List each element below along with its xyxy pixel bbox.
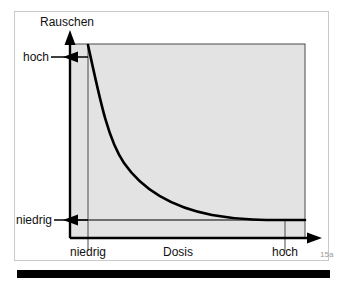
x-axis-arrowhead — [307, 233, 322, 244]
bottom-rule — [17, 270, 330, 278]
dose-noise-chart: Rauschen hoch niedrig niedrig Dosis hoch — [0, 0, 344, 282]
x-tick-label-high: hoch — [272, 245, 298, 259]
x-tick-label-low: niedrig — [70, 245, 106, 259]
y-axis-title: Rauschen — [40, 15, 94, 29]
y-tick-label-low: niedrig — [16, 213, 52, 227]
y-axis-arrowhead — [65, 30, 76, 45]
y-tick-label-high: hoch — [23, 50, 49, 64]
figure-root: Rauschen hoch niedrig niedrig Dosis hoch… — [0, 0, 344, 282]
figure-number: 15a — [320, 250, 333, 259]
x-axis-title: Dosis — [163, 245, 193, 259]
